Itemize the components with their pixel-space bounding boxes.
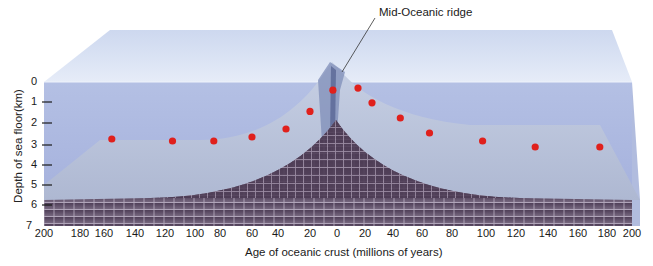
x-tick-label: 160 — [569, 227, 587, 239]
y-tick-label: 6 — [31, 198, 37, 210]
x-tick-label: 160 — [95, 227, 113, 239]
y-tick-label: 7 — [26, 219, 32, 231]
y-tick-label: 3 — [31, 138, 37, 150]
x-tick-label: 40 — [272, 227, 284, 239]
x-tick-label: 140 — [126, 227, 144, 239]
sea-floor-diagram: Depth of sea floor(km) 01234567 20018016… — [0, 0, 653, 266]
y-tick-label: 1 — [31, 95, 37, 107]
x-tick-label: 20 — [304, 227, 316, 239]
y-tick-label: 2 — [31, 116, 37, 128]
x-tick-label: 200 — [35, 227, 53, 239]
x-tick-label: 0 — [334, 227, 340, 239]
x-tick-label: 60 — [416, 227, 428, 239]
x-tick-label: 20 — [359, 227, 371, 239]
sample-point — [210, 137, 217, 144]
sample-point — [282, 125, 289, 132]
x-axis-label: Age of oceanic crust (millions of years) — [245, 246, 443, 258]
x-tick-label: 80 — [214, 227, 226, 239]
sample-point — [108, 135, 115, 142]
sample-point — [169, 137, 176, 144]
y-tick-label: 5 — [31, 178, 37, 190]
sample-point — [248, 133, 255, 140]
sample-point — [596, 143, 603, 150]
x-tick-label: 180 — [598, 227, 616, 239]
y-axis-label: Depth of sea floor(km) — [12, 76, 24, 216]
x-tick-label: 80 — [446, 227, 458, 239]
x-tick-label: 100 — [477, 227, 495, 239]
sample-point — [354, 85, 361, 92]
y-tick-label: 4 — [31, 158, 37, 170]
sample-point — [368, 99, 375, 106]
sample-point — [329, 87, 336, 94]
x-tick-label: 40 — [387, 227, 399, 239]
x-tick-label: 120 — [507, 227, 525, 239]
x-tick-label: 120 — [156, 227, 174, 239]
x-tick-label: 180 — [71, 227, 89, 239]
sample-point — [532, 143, 539, 150]
sample-point — [397, 114, 404, 121]
x-tick-label: 200 — [623, 227, 641, 239]
sample-point — [426, 129, 433, 136]
sample-point — [306, 108, 313, 115]
ridge-callout-label: Mid-Oceanic ridge — [379, 6, 472, 18]
sample-point — [479, 137, 486, 144]
x-tick-label: 60 — [246, 227, 258, 239]
x-tick-label: 100 — [186, 227, 204, 239]
y-tick-label: 0 — [31, 75, 37, 87]
x-tick-label: 140 — [539, 227, 557, 239]
